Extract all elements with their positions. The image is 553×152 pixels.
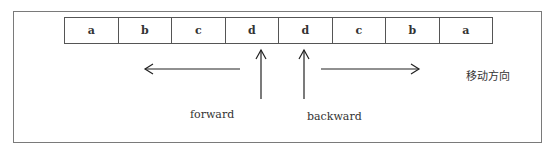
forward-label: forward	[190, 108, 234, 121]
direction-label: 移动方向	[466, 67, 510, 83]
array-cell: b	[386, 18, 440, 43]
array-cells: a b c d d c b a	[64, 17, 493, 44]
array-cell: d	[279, 18, 333, 43]
array-cell: c	[172, 18, 226, 43]
array-cell: d	[226, 18, 280, 43]
array-cell: a	[440, 18, 493, 43]
backward-label: backward	[307, 110, 362, 123]
array-cell: b	[119, 18, 173, 43]
array-cell: a	[65, 18, 119, 43]
array-cell: c	[333, 18, 387, 43]
